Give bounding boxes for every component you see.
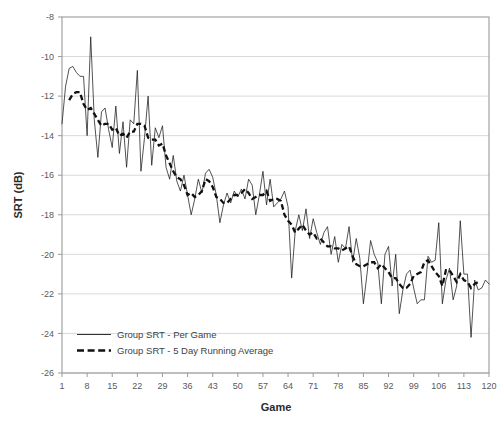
y-tick-label: -18 <box>41 210 54 220</box>
x-tick-label: 92 <box>384 381 394 391</box>
legend-label-per-game: Group SRT - Per Game <box>117 329 216 340</box>
x-tick-label: 106 <box>431 381 446 391</box>
x-tick-label: 71 <box>308 381 318 391</box>
x-tick-label: 36 <box>183 381 193 391</box>
y-tick-label: -8 <box>46 12 54 22</box>
chart-canvas: -8-10-12-14-16-18-20-22-24-26 1815222936… <box>0 0 504 430</box>
x-tick-label: 29 <box>157 381 167 391</box>
x-tick-label: 99 <box>409 381 419 391</box>
x-tick-label: 22 <box>132 381 142 391</box>
x-tick-label: 120 <box>481 381 496 391</box>
x-tick-label: 1 <box>59 381 64 391</box>
y-tick-label: -26 <box>41 368 54 378</box>
x-tick-label: 64 <box>283 381 293 391</box>
x-tick-label: 15 <box>107 381 117 391</box>
y-tick-label: -16 <box>41 170 54 180</box>
srt-learning-curve-figure: -8-10-12-14-16-18-20-22-24-26 1815222936… <box>0 0 504 430</box>
y-tick-label: -20 <box>41 250 54 260</box>
x-tick-label: 57 <box>258 381 268 391</box>
x-tick-label: 78 <box>333 381 343 391</box>
x-tick-label: 85 <box>358 381 368 391</box>
x-tick-label: 43 <box>208 381 218 391</box>
x-axis-title: Game <box>261 401 292 413</box>
y-tick-label: -22 <box>41 289 54 299</box>
x-tick-label: 8 <box>85 381 90 391</box>
y-tick-label: -12 <box>41 91 54 101</box>
y-tick-label: -24 <box>41 329 54 339</box>
legend-label-running-average: Group SRT - 5 Day Running Average <box>117 345 273 356</box>
x-tick-label: 113 <box>457 381 471 391</box>
y-axis-title: SRT (dB) <box>12 171 24 218</box>
x-tick-label: 50 <box>233 381 243 391</box>
y-tick-label: -14 <box>41 131 54 141</box>
y-tick-label: -10 <box>41 52 54 62</box>
